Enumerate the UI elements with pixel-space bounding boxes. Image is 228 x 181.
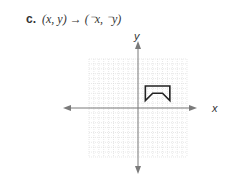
coordinate-plane: x y — [0, 0, 228, 181]
y-axis-down-arrow — [135, 166, 141, 174]
y-axis-label: y — [133, 30, 141, 42]
x-axis-right-arrow — [189, 105, 197, 111]
y-axis-up-arrow — [135, 41, 141, 49]
x-axis-label: x — [211, 102, 218, 114]
axes: x y — [63, 30, 218, 174]
x-axis-left-arrow — [63, 105, 71, 111]
